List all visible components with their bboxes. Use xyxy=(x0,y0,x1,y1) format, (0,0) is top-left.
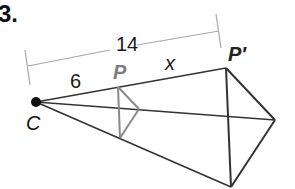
image-edge-upper xyxy=(226,68,275,120)
label-image-vertex: P′ xyxy=(228,43,246,66)
preimage-edge-lower xyxy=(120,109,139,138)
image-figure xyxy=(226,68,275,187)
ray-c-to-p-prime xyxy=(36,68,226,102)
image-edge-lower xyxy=(231,120,275,187)
label-center: C xyxy=(26,112,40,135)
dimension-segment-left xyxy=(28,50,110,66)
label-full-length: 14 xyxy=(116,33,138,56)
center-point-c xyxy=(31,97,41,107)
label-partial-length: 6 xyxy=(70,70,81,93)
dimension-segment-right xyxy=(137,31,219,45)
dilation-diagram xyxy=(0,0,295,189)
label-unknown-length: x xyxy=(165,52,175,75)
image-edge-vertical xyxy=(226,68,231,187)
preimage-figure xyxy=(118,87,139,138)
label-preimage-vertex: P xyxy=(113,61,126,84)
preimage-edge-upper xyxy=(118,87,139,109)
dimension-tick-left xyxy=(25,50,30,85)
preimage-edge-vertical xyxy=(118,87,120,138)
